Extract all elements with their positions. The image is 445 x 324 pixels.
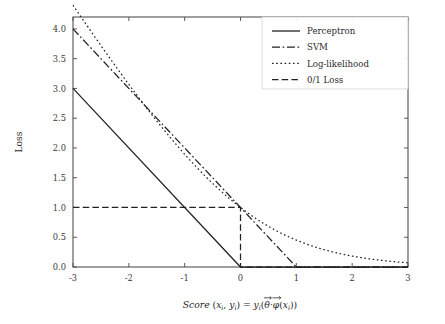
legend-label-perceptron: Perceptron [307, 26, 356, 36]
x-title-close: ) = [236, 299, 253, 310]
y-tick-label: 0.0 [53, 262, 66, 272]
x-tick-label: -1 [181, 273, 189, 283]
legend: PerceptronSVMLog-likelihood0/1 Loss [262, 17, 408, 89]
x-tick-label: -3 [69, 273, 77, 283]
x-axis-title: Score (xi, yi) = yi(θ·φ(xi)) [183, 296, 297, 310]
x-tick-label: 1 [294, 273, 299, 283]
y-tick-label: 2.5 [53, 113, 66, 123]
loss-functions-chart: -3-2-10123 0.00.51.01.52.02.53.03.54.0 L… [0, 0, 445, 324]
y-tick-label: 4.0 [53, 24, 66, 34]
y-axis-title: Loss [13, 131, 24, 152]
x-tick-label: 2 [350, 273, 355, 283]
x-tick-label: -2 [125, 273, 133, 283]
y-tick-label: 1.5 [53, 173, 66, 183]
y-tick-label: 0.5 [53, 232, 66, 242]
legend-label-0-1-loss: 0/1 Loss [307, 75, 343, 85]
x-title-score: Score [183, 299, 210, 310]
figure-canvas: -3-2-10123 0.00.51.01.52.02.53.03.54.0 L… [0, 0, 445, 324]
legend-label-log-likelihood: Log-likelihood [307, 59, 369, 69]
legend-label-svm: SVM [307, 42, 328, 52]
y-tick-label: 2.0 [53, 143, 66, 153]
x-tick-label: 3 [405, 273, 410, 283]
x-tick-label: 0 [238, 273, 243, 283]
svg-text:Score (xi, yi) = yi(θ·φ(xi)): Score (xi, yi) = yi(θ·φ(xi)) [183, 299, 297, 311]
y-tick-label: 1.0 [53, 203, 66, 213]
y-tick-label: 3.5 [53, 54, 66, 64]
y-tick-label: 3.0 [53, 84, 66, 94]
x-title-paren-close: )) [290, 299, 297, 310]
